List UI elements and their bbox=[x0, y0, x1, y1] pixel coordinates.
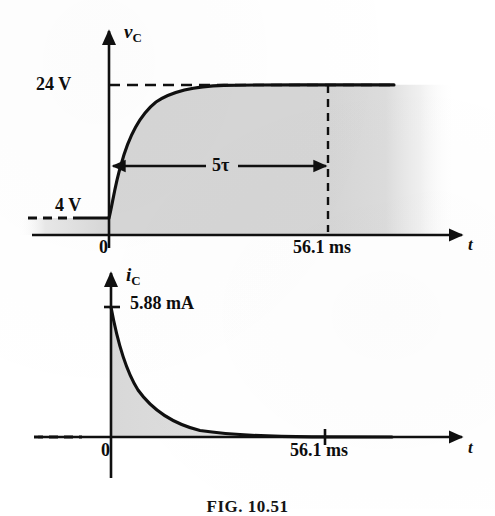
ic-chart bbox=[34, 273, 462, 478]
vc-5tau-label: 5τ bbox=[212, 156, 229, 174]
vc-time-axis-label: t bbox=[468, 236, 473, 253]
vc-axis-label: vC bbox=[124, 22, 142, 45]
ic-peak-label: 5.88 mA bbox=[130, 294, 194, 312]
vc-chart bbox=[18, 31, 462, 248]
vc-level-24v-label: 24 V bbox=[36, 75, 71, 93]
figure-caption: FIG. 10.51 bbox=[0, 497, 495, 516]
vc-settling-time-label: 56.1 ms bbox=[293, 238, 351, 256]
ic-axis-label: iC bbox=[126, 265, 141, 288]
vc-origin-label: 0 bbox=[99, 238, 108, 256]
vc-shaded-area bbox=[109, 85, 455, 235]
vc-shade-preswitch bbox=[18, 218, 109, 235]
ic-settling-time-label: 56.1 ms bbox=[290, 441, 348, 459]
vc-level-4v-label: 4 V bbox=[55, 196, 81, 214]
ic-time-axis-label: t bbox=[468, 439, 473, 456]
ic-axis-label-subscript: C bbox=[131, 273, 140, 288]
ic-origin-label: 0 bbox=[101, 441, 110, 459]
vc-axis-label-subscript: C bbox=[132, 30, 141, 45]
ic-shaded-area bbox=[111, 307, 330, 437]
